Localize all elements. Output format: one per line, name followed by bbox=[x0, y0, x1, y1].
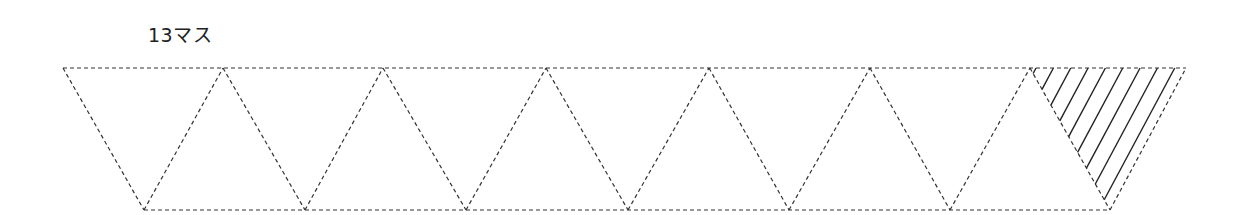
hatch-line bbox=[1033, 68, 1036, 74]
hatch-line bbox=[1042, 68, 1053, 89]
diagonal-edge bbox=[628, 68, 709, 210]
diagonal-edge bbox=[789, 68, 870, 210]
diagonal-edge bbox=[144, 68, 223, 210]
diagonal-edge bbox=[305, 68, 383, 210]
diagonal-edge bbox=[63, 68, 144, 210]
diagonal-edge bbox=[1030, 68, 1110, 210]
hatch-line bbox=[1104, 68, 1175, 200]
diagonal-edge bbox=[950, 68, 1030, 210]
diagonal-edge bbox=[383, 68, 466, 210]
diagonal-edge bbox=[466, 68, 546, 210]
hatch-line bbox=[1078, 68, 1123, 152]
diagonal-edge bbox=[870, 68, 950, 210]
hatch-line bbox=[1095, 68, 1157, 184]
hatch-line bbox=[1069, 68, 1106, 137]
hatch-line bbox=[1051, 68, 1071, 105]
diagonal-edge bbox=[546, 68, 628, 210]
diagonal-edge bbox=[223, 68, 305, 210]
hatch-line bbox=[1086, 68, 1140, 168]
triangle-strip-diagram bbox=[0, 0, 1239, 215]
diagonal-edge bbox=[709, 68, 789, 210]
hatch-line bbox=[1060, 68, 1088, 121]
diagonal-edge bbox=[1110, 68, 1186, 210]
